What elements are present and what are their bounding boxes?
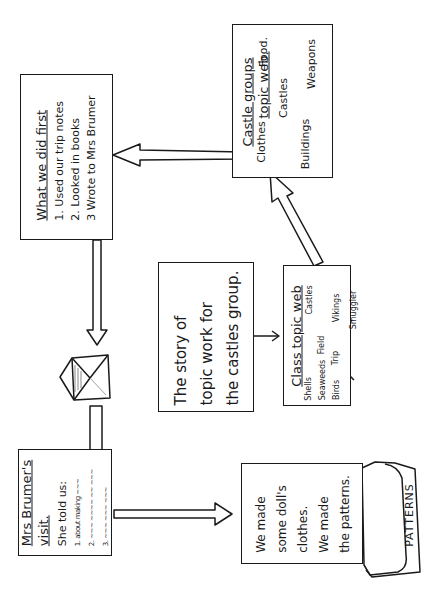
castle-web-node-buildings: Buildings	[298, 119, 314, 169]
story-line-2: topic work for	[194, 271, 220, 406]
visit-subtitle: visit.	[35, 460, 52, 546]
dolls-line-4: We made	[314, 475, 335, 553]
envelope-icon	[60, 355, 110, 400]
visit-title: Mrs Brumer's	[18, 460, 35, 546]
dolls-line-2: some doll's	[272, 475, 293, 553]
step-2: 2. Looked in books	[68, 95, 84, 220]
castle-web-hub: Castles	[276, 78, 292, 118]
class-web-node-seaweeds: Seaweeds	[316, 360, 330, 401]
story-line-3: the castles group.	[220, 271, 246, 406]
visit-intro: She told us:	[55, 460, 71, 546]
dolls-line-5: the patterns.	[335, 475, 356, 553]
dolls-line-1: We made	[251, 475, 272, 553]
step-1: 1. Used our trip notes	[52, 95, 68, 220]
what-we-did-first-title: What we did first	[33, 95, 50, 220]
castle-web-node-food: Food.	[256, 37, 272, 67]
dolls-line-3: clothes.	[293, 475, 314, 553]
arrow-classweb-to-castle	[270, 172, 323, 266]
patterns-folder-label: PATTERNS	[403, 483, 416, 547]
class-web-node-vikings: Vikings	[330, 294, 344, 323]
arrow-castle-to-first	[113, 144, 243, 166]
class-web-node-birds: Birds	[330, 380, 344, 400]
arrow-first-to-envelope	[87, 240, 107, 345]
dolls-clothes-box: We made some doll's clothes. We made the…	[241, 463, 363, 564]
arrow-visit-to-dolls	[114, 503, 232, 525]
class-web-node-castles: Castles	[303, 285, 317, 314]
visit-item-3: 3. ~~~ ~~~ ~~~	[99, 460, 113, 546]
mrs-brumers-visit-box: Mrs Brumer's visit. She told us: 1. abou…	[18, 449, 112, 556]
visit-item-2: 2. ~~~ ~~~~ ~~ ~~~	[85, 460, 99, 546]
castle-groups-title: Castle groups	[239, 57, 256, 146]
class-web-hub-field: Field	[315, 336, 329, 354]
class-web-hub-trip: Trip	[329, 351, 343, 365]
story-line-1: The story of	[168, 271, 194, 406]
castle-web-node-weapons: Weapons	[304, 39, 320, 89]
step-3: 3 Wrote to Mrs Brumer	[84, 95, 100, 220]
castle-web-node-clothes: Clothes	[254, 121, 270, 162]
class-topic-web-title: Class topic web	[288, 285, 305, 386]
what-we-did-first-box: What we did first 1. Used our trip notes…	[20, 74, 113, 240]
story-box: The story of topic work for the castles …	[158, 262, 254, 412]
class-web-node-shells: Shells	[302, 377, 316, 401]
class-web-node-smuggler: Smuggler	[347, 291, 361, 330]
visit-item-1: 1. about making ~~~	[71, 460, 85, 546]
